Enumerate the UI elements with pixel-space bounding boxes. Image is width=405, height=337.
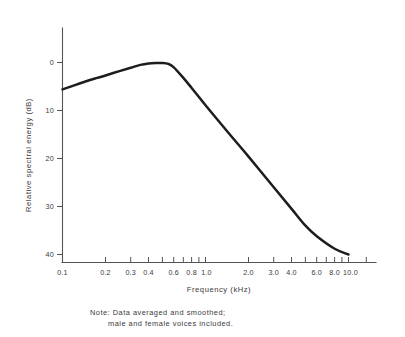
y-tick-label: 40 bbox=[46, 250, 54, 259]
x-tick-label: 2.0 bbox=[243, 268, 254, 277]
x-tick-label: 8.0 bbox=[329, 268, 340, 277]
y-tick-labels: 0 10 20 30 40 bbox=[46, 58, 54, 259]
x-tick-labels: 0.1 0.2 0.3 0.4 0.6 0.8 1.0 2.0 3.0 4.0 … bbox=[57, 268, 358, 277]
note-line-2: male and female voices included. bbox=[108, 319, 233, 328]
y-tick-label: 10 bbox=[46, 106, 54, 115]
y-tick-label: 20 bbox=[46, 154, 54, 163]
x-tick-label: 0.8 bbox=[186, 268, 197, 277]
x-tick-label: 1.0 bbox=[201, 268, 212, 277]
x-tick-label: 0.1 bbox=[57, 268, 68, 277]
note-line-1: Note: Data averaged and smoothed; bbox=[90, 308, 226, 317]
x-tick-label: 0.2 bbox=[100, 268, 111, 277]
x-tick-label: 4.0 bbox=[286, 268, 297, 277]
spectral-energy-curve bbox=[63, 63, 349, 255]
x-tick-label: 6.0 bbox=[311, 268, 322, 277]
x-tick-label: 3.0 bbox=[268, 268, 279, 277]
y-axis-title: Relative spectral energy (dB) bbox=[24, 98, 33, 212]
spectral-energy-chart: 0 10 20 30 40 bbox=[0, 0, 405, 337]
y-tick-marks bbox=[57, 63, 63, 255]
x-tick-label: 0.4 bbox=[143, 268, 154, 277]
y-tick-label: 30 bbox=[46, 202, 54, 211]
x-tick-marks bbox=[63, 257, 367, 263]
x-tick-label: 0.6 bbox=[168, 268, 179, 277]
x-tick-label: 0.3 bbox=[125, 268, 136, 277]
x-axis-title: Frequency (kHz) bbox=[187, 285, 251, 294]
figure-container: 0 10 20 30 40 bbox=[0, 0, 405, 337]
y-tick-label: 0 bbox=[50, 58, 54, 67]
x-tick-label: 10.0 bbox=[343, 268, 358, 277]
